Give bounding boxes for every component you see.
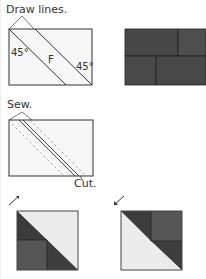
draw-lines-pointer — [9, 16, 34, 29]
fabric-rectangle-sew — [9, 120, 93, 181]
hst-unit-left — [9, 196, 78, 270]
hst-unit-right — [114, 196, 182, 270]
cut-label: Cut. — [74, 177, 96, 190]
sew-pointer — [9, 112, 32, 120]
dark-fabric-blocks — [125, 29, 206, 85]
piece-label: F — [48, 54, 54, 65]
angle-label-left: 45° — [11, 47, 29, 58]
quilt-diagram — [0, 0, 206, 279]
sew-label: Sew. — [7, 98, 32, 111]
angle-label-right: 45° — [76, 61, 94, 72]
